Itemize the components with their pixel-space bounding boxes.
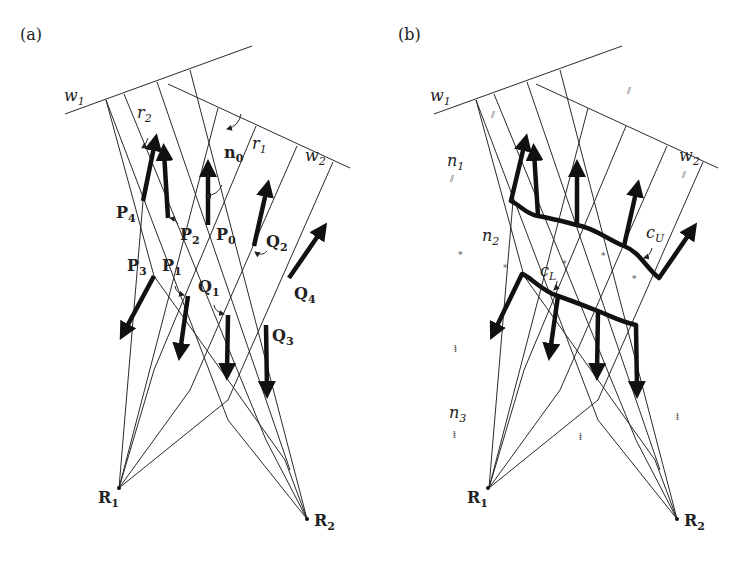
label-Q1: Q1 (198, 277, 220, 299)
label-n3: n3 (449, 403, 466, 425)
region-markers: ⫽ ⫽ ⫽ ⫽ ⁎ ⁎ ⁎ ⁎ ⁎ ⱡ ⱡ ⱡ ⱡ (449, 86, 686, 442)
panel-b-label: (b) (398, 25, 421, 44)
svg-text:⁎: ⁎ (601, 248, 606, 258)
svg-text:ⱡ: ⱡ (579, 432, 582, 442)
normal-arrows-a (124, 142, 322, 390)
svg-text:⁎: ⁎ (503, 260, 508, 270)
svg-text:⁎: ⁎ (632, 271, 637, 281)
point-R1 (117, 486, 121, 490)
label-R2: R2 (314, 511, 335, 533)
label-w2: w2 (305, 146, 326, 168)
point-R2 (305, 517, 309, 521)
point-R2-b (675, 517, 679, 521)
label-P3: P3 (127, 256, 147, 278)
label-R2-b: R2 (684, 511, 705, 533)
svg-text:ⱡ: ⱡ (676, 412, 679, 422)
rays-w1-b (476, 70, 677, 519)
label-w2-b: w2 (679, 146, 700, 168)
label-w1: w1 (64, 86, 85, 108)
label-Q3: Q3 (272, 326, 294, 348)
diagram-canvas: (a) (0, 0, 750, 563)
svg-text:⫽: ⫽ (449, 174, 454, 184)
label-n0: n0 (224, 143, 244, 165)
label-r1: r1 (252, 134, 267, 156)
point-R1-b (486, 486, 490, 490)
svg-text:ⱡ: ⱡ (453, 430, 456, 440)
label-w1-b: w1 (430, 86, 451, 108)
label-n1: n1 (447, 151, 464, 173)
label-Q2: Q2 (266, 232, 288, 254)
label-R1: R1 (98, 488, 119, 510)
panel-b: (b) (398, 25, 718, 533)
wavefront-w1-b (434, 46, 622, 114)
label-r2: r2 (137, 103, 152, 125)
label-Q4: Q4 (294, 284, 316, 306)
label-R1-b: R1 (467, 488, 488, 510)
label-n2: n2 (482, 226, 499, 248)
svg-text:ⱡ: ⱡ (454, 344, 457, 354)
curve-cL (522, 274, 636, 325)
svg-text:⁎: ⁎ (458, 247, 463, 257)
label-P2: P2 (180, 225, 200, 247)
svg-text:⫽: ⫽ (490, 110, 495, 120)
normal-arrows-b (494, 142, 692, 390)
svg-text:⫽: ⫽ (626, 86, 631, 96)
svg-text:⫽: ⫽ (681, 170, 686, 180)
panel-a-label: (a) (20, 25, 42, 44)
label-cL: cL (540, 261, 556, 283)
curve-cU (511, 201, 659, 278)
label-P0: P0 (216, 225, 236, 247)
pointer-cU (644, 248, 652, 258)
svg-text:⁎: ⁎ (562, 256, 567, 266)
panel-a: (a) (20, 25, 350, 533)
label-P4: P4 (116, 203, 136, 225)
wavefront-w1 (65, 46, 252, 114)
label-cU: cU (646, 223, 665, 245)
